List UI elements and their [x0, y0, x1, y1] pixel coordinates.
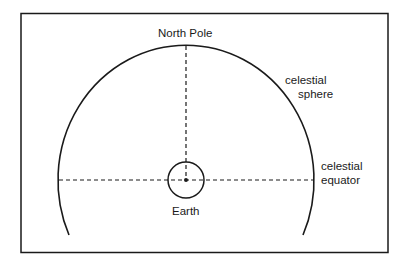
frame-border	[21, 14, 388, 253]
earth-label: Earth	[172, 205, 200, 218]
celestial-equator-label-line1: celestial	[321, 160, 363, 173]
north-pole-label: North Pole	[158, 27, 212, 40]
celestial-equator-label-line2: equator	[321, 174, 360, 187]
earth-center-dot	[184, 178, 188, 182]
celestial-sphere-label-line1: celestial	[285, 74, 327, 87]
celestial-sphere-diagram	[0, 0, 408, 270]
celestial-sphere-label-line2: sphere	[298, 88, 333, 101]
